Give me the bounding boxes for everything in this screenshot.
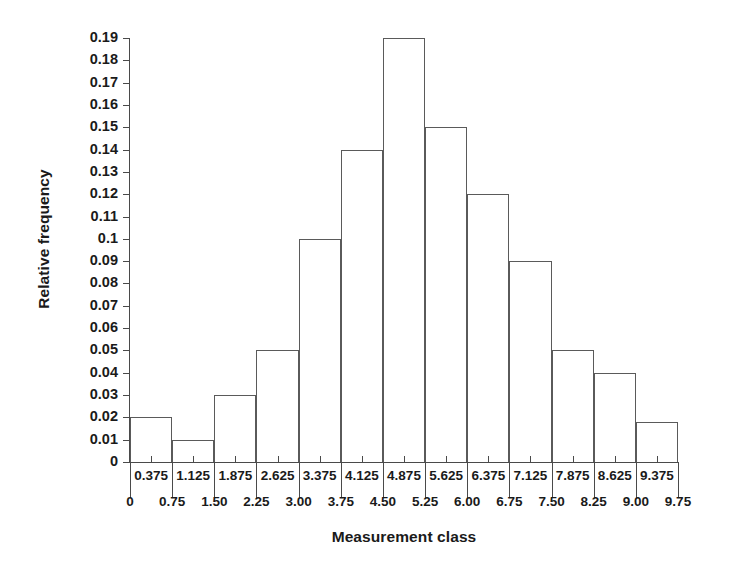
x-tick-edge — [172, 462, 173, 498]
x-bin-center-label: 4.875 — [387, 468, 421, 483]
histogram-bar — [425, 127, 467, 462]
y-tick-label: 0.02 — [90, 408, 118, 424]
y-tick-label: 0.12 — [90, 185, 118, 201]
y-tick-label: 0.07 — [90, 297, 118, 313]
x-bin-center-label: 9.375 — [640, 468, 674, 483]
x-bin-edge-label: 3.75 — [328, 494, 354, 509]
y-tick-label: 0.13 — [90, 163, 118, 179]
y-tick: 0.15 — [123, 127, 130, 128]
y-tick-label: 0.1 — [98, 230, 118, 246]
x-bin-edge-label: 9.00 — [623, 494, 649, 509]
y-tick-label: 0.16 — [90, 96, 118, 112]
y-tick: 0.06 — [123, 328, 130, 329]
x-bin-center-label: 1.875 — [218, 468, 252, 483]
y-tick: 0.11 — [123, 217, 130, 218]
histogram-bar — [594, 373, 636, 462]
x-tick-center — [320, 456, 321, 462]
y-axis-title: Relative frequency — [35, 109, 53, 369]
y-tick-label: 0.04 — [90, 364, 118, 380]
x-tick-center — [235, 456, 236, 462]
x-tick-center — [193, 456, 194, 462]
x-tick-edge — [509, 462, 510, 498]
x-bin-center-label: 7.875 — [556, 468, 590, 483]
x-bin-edge-label: 0.75 — [159, 494, 185, 509]
y-tick: 0.09 — [123, 261, 130, 262]
y-tick: 0.1 — [123, 239, 130, 240]
x-bin-edge-label: 9.75 — [665, 494, 691, 509]
y-tick-label: 0 — [110, 453, 118, 469]
x-axis-spine — [129, 462, 678, 463]
y-tick: 0.03 — [123, 395, 130, 396]
histogram-bar — [467, 194, 509, 462]
y-tick: 0.13 — [123, 172, 130, 173]
plot-area: 00.010.020.030.040.050.060.070.080.090.1… — [130, 38, 678, 462]
x-tick-edge — [467, 462, 468, 498]
y-tick-label: 0.05 — [90, 341, 118, 357]
y-tick-label: 0.09 — [90, 252, 118, 268]
x-bin-edge-label: 6.75 — [496, 494, 522, 509]
histogram-bar — [341, 150, 383, 462]
y-tick-label: 0.03 — [90, 386, 118, 402]
x-bin-center-label: 5.625 — [429, 468, 463, 483]
x-bin-center-label: 0.375 — [134, 468, 168, 483]
x-bin-center-label: 4.125 — [345, 468, 379, 483]
y-tick-label: 0.19 — [90, 29, 118, 45]
y-axis-spine — [129, 38, 130, 462]
x-tick-center — [615, 456, 616, 462]
y-tick-label: 0.14 — [90, 141, 118, 157]
y-tick: 0.14 — [123, 150, 130, 151]
x-bin-edge-label: 7.50 — [538, 494, 564, 509]
x-tick-edge — [594, 462, 595, 498]
x-tick-edge — [130, 462, 131, 498]
y-tick: 0.19 — [123, 38, 130, 39]
y-tick-label: 0.15 — [90, 118, 118, 134]
y-tick: 0.01 — [123, 440, 130, 441]
x-bin-edge-label: 2.25 — [243, 494, 269, 509]
x-tick-edge — [341, 462, 342, 498]
x-bin-edge-label: 1.50 — [201, 494, 227, 509]
histogram-bar — [383, 38, 425, 462]
y-tick: 0.05 — [123, 350, 130, 351]
y-tick-label: 0.01 — [90, 431, 118, 447]
histogram-bar — [552, 350, 594, 462]
x-tick-edge — [256, 462, 257, 498]
x-axis-title: Measurement class — [130, 528, 678, 546]
x-tick-edge — [678, 462, 679, 498]
x-tick-center — [530, 456, 531, 462]
y-tick: 0.07 — [123, 306, 130, 307]
histogram-figure: Relative frequency Measurement class 00.… — [0, 0, 747, 579]
x-bin-center-label: 8.625 — [598, 468, 632, 483]
x-tick-edge — [636, 462, 637, 498]
x-tick-edge — [552, 462, 553, 498]
y-tick-label: 0.06 — [90, 319, 118, 335]
histogram-bar — [509, 261, 551, 462]
x-bin-center-label: 7.125 — [514, 468, 548, 483]
x-bin-edge-label: 4.50 — [370, 494, 396, 509]
x-bin-edge-label: 6.00 — [454, 494, 480, 509]
x-bin-edge-label: 0 — [126, 494, 134, 509]
y-tick: 0.08 — [123, 283, 130, 284]
x-tick-center — [657, 456, 658, 462]
x-tick-center — [446, 456, 447, 462]
x-bin-edge-label: 3.00 — [285, 494, 311, 509]
x-tick-center — [362, 456, 363, 462]
x-tick-center — [278, 456, 279, 462]
y-tick-label: 0.11 — [91, 208, 118, 224]
y-tick: 0.04 — [123, 373, 130, 374]
x-tick-edge — [383, 462, 384, 498]
x-tick-edge — [299, 462, 300, 498]
y-tick-label: 0.08 — [90, 274, 118, 290]
y-tick-label: 0.18 — [90, 51, 118, 67]
x-tick-center — [151, 456, 152, 462]
x-bin-center-label: 2.625 — [261, 468, 295, 483]
y-tick: 0.17 — [123, 83, 130, 84]
y-tick: 0.16 — [123, 105, 130, 106]
x-tick-center — [488, 456, 489, 462]
histogram-bar — [256, 350, 298, 462]
y-tick-label: 0.17 — [90, 74, 118, 90]
x-tick-center — [573, 456, 574, 462]
y-tick: 0.12 — [123, 194, 130, 195]
x-tick-edge — [425, 462, 426, 498]
x-bin-center-label: 6.375 — [471, 468, 505, 483]
x-bin-center-label: 3.375 — [303, 468, 337, 483]
